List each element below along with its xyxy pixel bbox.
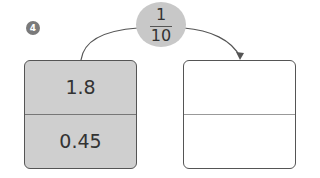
answer-top-field[interactable]: [184, 61, 295, 115]
fraction-denominator: 10: [136, 28, 186, 44]
input-top-value: 1.8: [25, 61, 136, 115]
fraction-numerator: 1: [136, 7, 186, 23]
input-box: 1.8 0.45: [24, 60, 137, 169]
input-bottom-value: 0.45: [25, 115, 136, 169]
answer-box[interactable]: [183, 60, 296, 169]
answer-bottom-field[interactable]: [184, 115, 295, 169]
operator-circle: 1 10: [136, 2, 186, 47]
arrowhead-icon: [236, 52, 244, 60]
